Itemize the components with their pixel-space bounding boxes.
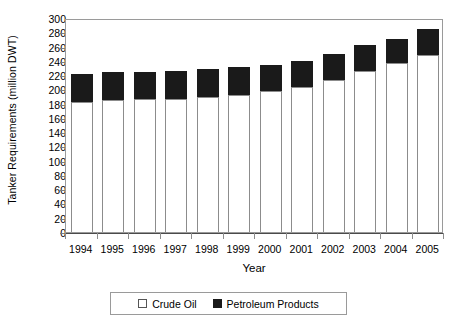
bar-segment-crude-oil <box>102 100 124 232</box>
bar-segment-crude-oil <box>165 99 187 232</box>
bar-segment-petroleum-products <box>323 54 345 80</box>
x-tick-mark <box>65 233 66 239</box>
bar-segment-crude-oil <box>228 95 250 232</box>
bar-segment-petroleum-products <box>102 72 124 101</box>
y-axis-title-label: Tanker Requirements (million DWT) <box>6 35 18 205</box>
x-tick-mark <box>380 233 381 239</box>
chart-legend: Crude Oil Petroleum Products <box>110 292 347 315</box>
y-axis-title: Tanker Requirements (million DWT) <box>0 0 24 240</box>
y-tick-label: 300 <box>26 13 66 25</box>
bar-segment-petroleum-products <box>134 72 156 99</box>
bar-segment-crude-oil <box>386 63 408 232</box>
x-tick-mark <box>191 233 192 239</box>
bar-group <box>386 18 408 232</box>
bar-segment-petroleum-products <box>354 45 376 71</box>
bar-segment-petroleum-products <box>228 67 250 96</box>
x-axis-title: Year <box>65 262 443 274</box>
bar-segment-crude-oil <box>417 55 439 232</box>
x-tick-mark <box>286 233 287 239</box>
bar-group <box>291 18 313 232</box>
bar-group <box>417 18 439 232</box>
bar-group <box>134 18 156 232</box>
bar-group <box>260 18 282 232</box>
bar-segment-petroleum-products <box>417 29 439 55</box>
x-tick-mark <box>97 233 98 239</box>
bar-segment-crude-oil <box>291 87 313 232</box>
bar-group <box>323 18 345 232</box>
x-tick-mark <box>349 233 350 239</box>
bar-group <box>197 18 219 232</box>
bar-segment-crude-oil <box>323 80 345 232</box>
legend-label-crude-oil: Crude Oil <box>152 298 196 310</box>
bar-segment-petroleum-products <box>291 61 313 87</box>
x-tick-mark <box>160 233 161 239</box>
tanker-requirements-chart: Tanker Requirements (million DWT) 300280… <box>0 0 455 333</box>
x-tick-mark <box>254 233 255 239</box>
bar-segment-petroleum-products <box>197 69 219 97</box>
bar-segment-crude-oil <box>354 71 376 232</box>
bar-segment-petroleum-products <box>386 39 408 63</box>
legend-item-petroleum-products: Petroleum Products <box>213 298 319 310</box>
bar-segment-crude-oil <box>197 97 219 232</box>
x-tick-mark <box>223 233 224 239</box>
bar-segment-crude-oil <box>71 102 93 232</box>
bar-segment-crude-oil <box>260 91 282 232</box>
bar-group <box>102 18 124 232</box>
bar-segment-petroleum-products <box>71 74 93 102</box>
legend-label-petroleum-products: Petroleum Products <box>227 298 319 310</box>
white-square-icon <box>138 299 147 308</box>
bar-group <box>165 18 187 232</box>
black-square-icon <box>213 299 222 308</box>
x-tick-mark <box>128 233 129 239</box>
plot-area <box>65 19 443 233</box>
bar-segment-petroleum-products <box>165 71 187 99</box>
x-tick-mark <box>412 233 413 239</box>
bar-segment-petroleum-products <box>260 65 282 91</box>
bar-group <box>71 18 93 232</box>
x-tick-label: 2005 <box>404 243 450 256</box>
bar-group <box>228 18 250 232</box>
legend-item-crude-oil: Crude Oil <box>138 298 196 310</box>
x-tick-mark <box>317 233 318 239</box>
bar-group <box>354 18 376 232</box>
x-tick-mark <box>443 233 444 239</box>
bar-segment-crude-oil <box>134 99 156 232</box>
